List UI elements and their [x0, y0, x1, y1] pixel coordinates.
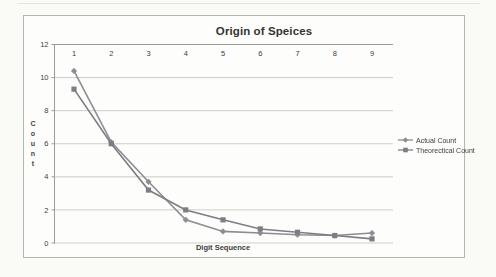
- y-tick-label: 0: [44, 239, 48, 248]
- data-point-diamond-marker: [369, 230, 375, 236]
- legend-item-theorectical-count: Theorectical Count: [398, 146, 475, 154]
- y-axis-title-letter: C: [30, 119, 35, 129]
- x-tick-label: 6: [258, 49, 262, 58]
- data-point-square-marker: [109, 141, 114, 146]
- data-point-square-marker: [258, 226, 263, 231]
- square-line-legend-icon: [398, 146, 413, 154]
- y-tick-label: 10: [40, 73, 48, 82]
- y-axis-title-letter: u: [31, 139, 35, 149]
- x-axis-title: Digit Sequence: [123, 243, 323, 252]
- data-point-square-marker: [71, 87, 76, 92]
- data-point-diamond-marker: [71, 68, 77, 74]
- chart-screenshot: 024681012123456789 Origin of Speices Cou…: [0, 0, 496, 277]
- x-tick-label: 5: [221, 49, 225, 58]
- legend: Actual Count Theorectical Count: [398, 136, 475, 154]
- legend-label: Theorectical Count: [416, 147, 475, 154]
- y-axis-title-letter: o: [31, 129, 35, 139]
- series-line-theorectical-count: [74, 89, 372, 239]
- y-tick-label: 4: [44, 172, 48, 181]
- y-axis-title: Count: [27, 119, 39, 169]
- x-tick-label: 8: [333, 49, 337, 58]
- y-axis-title-letter: n: [31, 149, 35, 159]
- x-tick-label: 3: [146, 49, 150, 58]
- y-tick-label: 2: [44, 206, 48, 215]
- x-tick-label: 4: [184, 49, 188, 58]
- data-point-square-marker: [146, 187, 151, 192]
- legend-item-actual-count: Actual Count: [398, 136, 475, 144]
- x-tick-label: 7: [295, 49, 299, 58]
- y-axis-title-letter: t: [32, 159, 34, 169]
- y-tick-label: 6: [44, 139, 48, 148]
- y-tick-label: 12: [40, 40, 48, 49]
- y-tick-label: 8: [44, 106, 48, 115]
- data-point-square-marker: [332, 233, 337, 238]
- chart-title: Origin of Speices: [160, 25, 368, 37]
- x-tick-label: 1: [72, 49, 76, 58]
- data-point-square-marker: [220, 217, 225, 222]
- data-point-square-marker: [369, 236, 374, 241]
- legend-label: Actual Count: [416, 137, 456, 144]
- x-tick-label: 9: [370, 49, 374, 58]
- data-point-square-marker: [183, 207, 188, 212]
- x-tick-label: 2: [109, 49, 113, 58]
- data-point-diamond-marker: [220, 228, 226, 234]
- data-point-square-marker: [295, 230, 300, 235]
- diamond-line-legend-icon: [398, 136, 413, 144]
